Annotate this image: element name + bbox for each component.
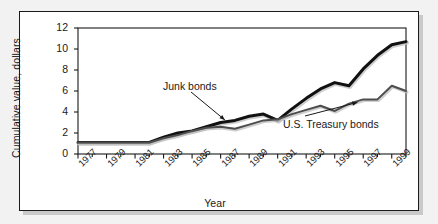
- plot-frame: [78, 28, 406, 154]
- series-line-treasury-bonds: [78, 86, 406, 143]
- arrow-junk-bonds: [191, 92, 225, 120]
- y-axis-ticks: [74, 28, 78, 154]
- annotation-arrows: [191, 92, 358, 120]
- x-axis-ticks: [78, 154, 406, 159]
- line-chart: [0, 0, 438, 224]
- figure-root: Cumulative value, dollars Year 024681012…: [0, 0, 438, 224]
- data-series-group: [78, 42, 407, 144]
